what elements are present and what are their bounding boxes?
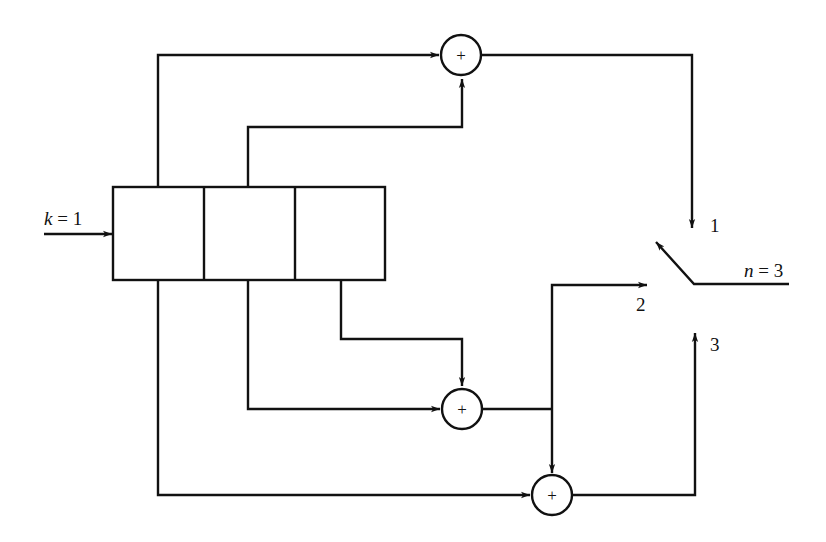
adder-2-symbol: + [457,400,467,419]
output-label: n = 3 [744,260,783,281]
input-label: k = 1 [44,208,82,229]
switch-pos-1-label: 1 [710,215,720,236]
encoder-diagram: k = 1 + + + 1 2 3 n = 3 [0,0,826,542]
wire-stage1-to-adder1 [158,55,439,187]
register-outline [113,187,385,280]
adder-1-symbol: + [456,46,466,65]
wire-adder3-to-switch [572,333,695,495]
switch-pos-2-label: 2 [636,294,646,315]
wire-adder1-to-switch [481,55,692,228]
shift-register [113,187,385,280]
switch-pos-3-label: 3 [710,334,720,355]
adder-3-symbol: + [547,486,557,505]
wire-stage1-to-adder3 [158,280,530,495]
wire-adder2-to-switch [552,285,647,409]
wire-stage2-to-adder1 [248,79,462,187]
wire-stage2-to-adder2 [248,280,440,409]
wire-stage3-to-adder2 [341,280,462,386]
